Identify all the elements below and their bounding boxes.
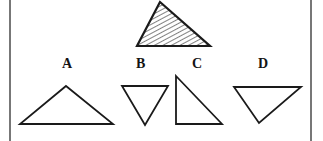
- option-triangle-d[interactable]: [234, 87, 301, 123]
- option-label-b: B: [136, 57, 146, 71]
- option-triangle-b[interactable]: [122, 86, 168, 125]
- figure-container: A B C D: [0, 0, 323, 141]
- hatched-triangle: [137, 2, 210, 46]
- option-label-d: D: [258, 57, 268, 71]
- option-label-c: C: [192, 57, 202, 71]
- option-label-a: A: [62, 57, 72, 71]
- option-triangle-a[interactable]: [20, 86, 113, 124]
- triangle-figure-svg: [0, 0, 323, 141]
- option-triangle-c[interactable]: [176, 76, 222, 124]
